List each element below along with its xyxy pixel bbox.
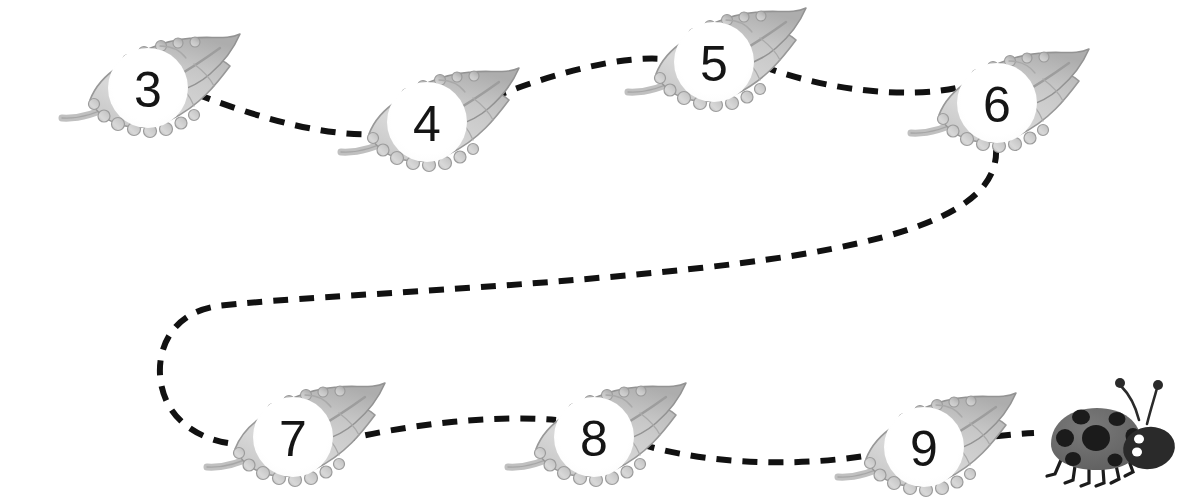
leaf-3[interactable]: 3 [62,34,240,138]
leaf-9[interactable]: 9 [838,393,1016,497]
leaf-number-label: 4 [413,96,441,152]
segment-8-to-9 [640,444,886,462]
leaf-6[interactable]: 6 [911,49,1089,153]
leaf-number-label: 5 [700,36,728,92]
scene-canvas: 3456789 [0,0,1191,503]
leaf-nodes-group: 3456789 [62,8,1089,497]
leaf-8[interactable]: 8 [508,383,686,487]
ladybug-group [1047,378,1178,486]
leaf-4[interactable]: 4 [341,68,519,172]
leaf-7[interactable]: 7 [207,383,385,487]
leaf-number-label: 9 [910,421,938,477]
leaf-number-label: 7 [279,411,307,467]
leaf-number-label: 8 [580,411,608,467]
ladybug[interactable] [1047,378,1178,486]
ladybug-graphic [1047,378,1178,486]
segment-3-to-4 [196,94,392,134]
leaf-number-label: 6 [983,77,1011,133]
leaf-number-label: 3 [134,62,162,118]
segment-5-to-6 [762,66,956,93]
worksheet-scene: 3456789 [0,0,1191,503]
segment-7-to-8 [340,418,556,441]
